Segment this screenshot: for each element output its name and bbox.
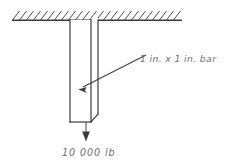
load-arrowhead	[82, 132, 90, 142]
figure-canvas: 1 in. x 1 in. bar 10 000 lb	[0, 0, 228, 162]
load-arrow	[82, 122, 90, 142]
load-label-text: 10 000 lb	[62, 147, 115, 158]
bar-load-diagram: 1 in. x 1 in. bar 10 000 lb	[0, 0, 228, 162]
bar-body	[70, 13, 98, 122]
bar-label-text: 1 in. x 1 in. bar	[140, 53, 217, 64]
